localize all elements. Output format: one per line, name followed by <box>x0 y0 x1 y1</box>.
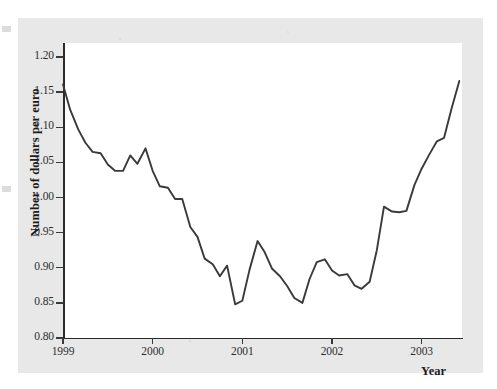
y-tick-mark <box>56 127 63 128</box>
x-axis-line <box>63 338 463 340</box>
y-axis-line <box>63 43 65 339</box>
x-tick-label: 1999 <box>41 345 85 357</box>
x-tick-mark <box>62 338 63 344</box>
y-axis-title: Number of dollars per euro <box>28 68 43 258</box>
y-tick-mark <box>56 302 63 303</box>
x-tick-mark <box>331 338 332 344</box>
x-tick-label: 2001 <box>220 345 264 357</box>
x-tick-label: 2003 <box>400 345 444 357</box>
y-tick-mark <box>56 267 63 268</box>
scan-artifact-middle <box>2 186 11 192</box>
y-tick-label: 0.80 <box>18 330 54 342</box>
x-tick-label: 2000 <box>131 345 175 357</box>
y-tick-mark <box>56 91 63 92</box>
figure-page: 0.800.850.900.951.001.051.101.151.20 199… <box>0 0 497 389</box>
plot-area <box>63 43 462 338</box>
x-tick-mark <box>152 338 153 344</box>
x-axis-title: Year <box>421 364 446 379</box>
x-tick-mark <box>421 338 422 344</box>
x-tick-mark <box>242 338 243 344</box>
y-tick-label: 0.85 <box>18 295 54 307</box>
y-tick-mark <box>56 56 63 57</box>
x-tick-label: 2002 <box>310 345 354 357</box>
y-tick-mark <box>56 197 63 198</box>
y-tick-mark <box>56 232 63 233</box>
y-tick-label: 1.20 <box>18 49 54 61</box>
scan-artifact-top <box>2 26 11 32</box>
y-tick-label: 0.90 <box>18 260 54 272</box>
y-tick-mark <box>56 162 63 163</box>
